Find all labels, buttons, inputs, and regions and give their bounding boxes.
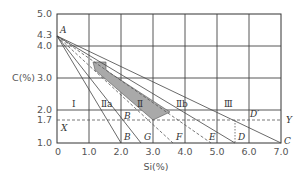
svg-text:7.0: 7.0	[273, 146, 288, 157]
label-d-prime: D′	[249, 109, 259, 119]
region-i: Ⅰ	[72, 99, 76, 109]
svg-text:6.0: 6.0	[241, 146, 256, 157]
point-labels: A B B G F E D D′ C X Y	[59, 25, 293, 146]
svg-text:3.0: 3.0	[37, 72, 52, 83]
svg-text:5.0: 5.0	[209, 146, 224, 157]
svg-text:4.0: 4.0	[37, 40, 52, 51]
y-axis-ticks: 5.0 4.3 4.0 3.0 2.0 1.7 1.0	[37, 8, 52, 148]
label-c: C	[284, 136, 291, 146]
label-f: F	[175, 132, 183, 142]
x-axis-ticks: 0 1.0 2.0 3.0 4.0 5.0 6.0 7.0	[55, 146, 289, 157]
region-iib: Ⅱb	[176, 99, 188, 109]
svg-text:1.0: 1.0	[81, 146, 96, 157]
shaded-region	[93, 62, 170, 120]
cast-iron-diagram: 5.0 4.3 4.0 3.0 2.0 1.7 1.0 C(%) 0 1.0 2…	[0, 0, 300, 180]
rays	[57, 36, 281, 143]
label-b: B	[123, 132, 131, 142]
svg-text:3.0: 3.0	[145, 146, 160, 157]
svg-text:2.0: 2.0	[113, 146, 128, 157]
svg-text:1.7: 1.7	[37, 114, 52, 125]
x-axis-label: Si(%)	[143, 161, 168, 172]
label-a: A	[59, 25, 67, 35]
label-x: X	[60, 123, 68, 133]
label-y: Y	[286, 115, 293, 125]
label-d: D	[237, 132, 245, 142]
label-e: E	[208, 132, 216, 142]
svg-text:0: 0	[55, 146, 61, 157]
svg-text:4.0: 4.0	[177, 146, 192, 157]
region-ii: Ⅱ	[137, 99, 143, 109]
svg-text:1.0: 1.0	[37, 137, 52, 148]
region-iia: Ⅱa	[101, 99, 113, 109]
region-iii: Ⅲ	[224, 99, 233, 109]
y-axis-label: C(%)	[12, 72, 35, 83]
svg-text:5.0: 5.0	[37, 8, 52, 19]
label-g: G	[144, 132, 151, 142]
svg-text:4.3: 4.3	[37, 29, 52, 40]
label-b-upper: B	[123, 111, 131, 121]
